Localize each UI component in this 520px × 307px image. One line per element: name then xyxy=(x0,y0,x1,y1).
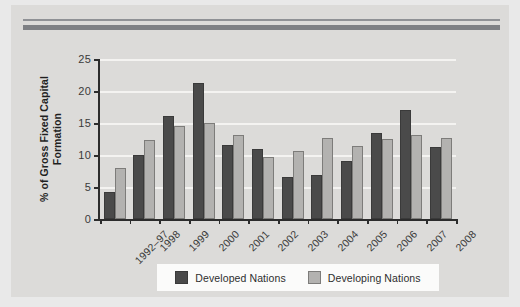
y-axis-title-line2: Formation xyxy=(51,113,63,165)
y-axis-tick-label: 10 xyxy=(78,149,91,161)
x-axis-tick xyxy=(100,219,102,224)
x-axis-tick xyxy=(219,219,221,224)
x-axis-label: 2002 xyxy=(275,228,301,254)
bar-group xyxy=(100,59,130,219)
y-axis-tick-label: 5 xyxy=(85,181,91,193)
x-axis-label: 2003 xyxy=(305,228,331,254)
bar-developed xyxy=(252,149,263,219)
bar-developed xyxy=(282,177,293,219)
bar-developed xyxy=(371,133,382,219)
bar-developed xyxy=(222,145,233,219)
bar-developing xyxy=(411,135,422,219)
x-axis-label: 2000 xyxy=(216,228,242,254)
bar-developing xyxy=(263,157,274,219)
legend-item-developed: Developed Nations xyxy=(175,271,285,284)
y-axis-title: % of Gross Fixed Capital Formation xyxy=(34,59,68,219)
bar-group xyxy=(219,59,249,219)
bar-group xyxy=(367,59,397,219)
x-axis-label: 2004 xyxy=(334,228,360,254)
bar-developed xyxy=(311,175,322,219)
bar-developing xyxy=(352,146,363,219)
bar-group xyxy=(278,59,308,219)
legend-label-developing: Developing Nations xyxy=(328,272,421,284)
x-axis-tick xyxy=(130,219,132,224)
bar-developing xyxy=(115,168,126,219)
plot-area: 0510152025 xyxy=(98,59,456,221)
x-axis-tick xyxy=(426,219,428,224)
bar-developed xyxy=(341,161,352,219)
y-axis-tick-label: 20 xyxy=(78,85,91,97)
legend-label-developed: Developed Nations xyxy=(195,272,285,284)
x-axis-label: 1999 xyxy=(186,228,212,254)
x-axis-tick xyxy=(308,219,310,224)
x-axis-label: 2001 xyxy=(245,228,271,254)
legend-swatch-developed-icon xyxy=(175,271,188,284)
bar-group xyxy=(189,59,219,219)
bar-developing xyxy=(293,151,304,219)
legend-item-developing: Developing Nations xyxy=(308,271,421,284)
x-axis-tick xyxy=(367,219,369,224)
legend-swatch-developing-icon xyxy=(308,271,321,284)
x-axis-label: 2008 xyxy=(453,228,479,254)
header-rule-thick xyxy=(23,25,500,30)
y-axis-title-line1: % of Gross Fixed Capital xyxy=(38,76,50,202)
bar-group xyxy=(159,59,189,219)
bar-group xyxy=(426,59,456,219)
bar-developed xyxy=(193,83,204,219)
bar-developing xyxy=(233,135,244,219)
bar-group xyxy=(308,59,338,219)
bar-developed xyxy=(163,116,174,219)
bar-group xyxy=(248,59,278,219)
y-axis-tick-label: 15 xyxy=(78,117,91,129)
x-axis-label: 2005 xyxy=(364,228,390,254)
x-axis-tick xyxy=(456,219,458,224)
x-axis-tick xyxy=(397,219,399,224)
x-axis-tick xyxy=(189,219,191,224)
x-axis-label: 2007 xyxy=(423,228,449,254)
bar-group xyxy=(397,59,427,219)
x-axis-tick xyxy=(278,219,280,224)
bar-group xyxy=(337,59,367,219)
bar-developing xyxy=(322,138,333,219)
header-rule-thin xyxy=(23,19,500,21)
bar-developed xyxy=(104,192,115,219)
page-root: % of Gross Fixed Capital Formation 05101… xyxy=(0,0,520,307)
bar-developing xyxy=(382,139,393,219)
bar-developed xyxy=(400,110,411,219)
bar-developed xyxy=(133,155,144,219)
bar-developing xyxy=(204,123,215,219)
x-axis-tick xyxy=(248,219,250,224)
y-axis-tick-label: 0 xyxy=(85,213,91,225)
chart-legend: Developed Nations Developing Nations xyxy=(157,264,439,291)
x-axis-tick xyxy=(337,219,339,224)
y-axis-tick-label: 25 xyxy=(78,53,91,65)
x-axis-label: 2006 xyxy=(394,228,420,254)
bar-developing xyxy=(144,140,155,219)
bar-developed xyxy=(430,147,441,219)
bar-group xyxy=(130,59,160,219)
figure-panel: % of Gross Fixed Capital Formation 05101… xyxy=(11,5,509,297)
x-axis-tick xyxy=(159,219,161,224)
bar-developing xyxy=(174,126,185,219)
bar-developing xyxy=(441,138,452,219)
